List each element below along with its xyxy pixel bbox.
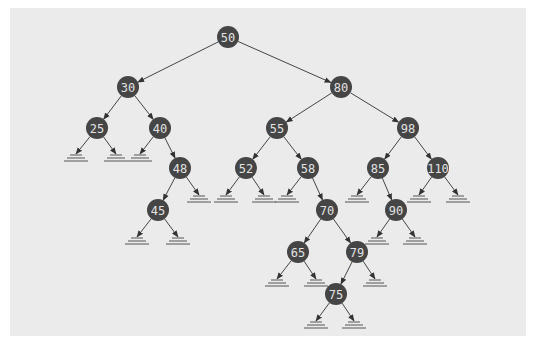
tree-edge (135, 96, 153, 120)
tree-edge (104, 96, 122, 119)
nil-leaf-icon (128, 155, 152, 161)
node-label: 110 (427, 162, 449, 176)
tree-node-85: 85 (367, 157, 389, 179)
nil-leaf-icon (265, 280, 289, 286)
tree-edge (287, 177, 301, 195)
tree-node-55: 55 (266, 117, 288, 139)
nodes-layer: 5030802540559848525885110457090657975 (86, 26, 449, 305)
node-label: 58 (301, 162, 315, 176)
tree-node-70: 70 (316, 199, 338, 221)
tree-edge (226, 177, 239, 195)
tree-edge (445, 177, 458, 195)
tree-edge (286, 93, 331, 122)
tree-node-75: 75 (325, 283, 347, 305)
tree-edge (304, 219, 320, 243)
tree-node-65: 65 (287, 241, 309, 263)
nil-leaf-icon (345, 196, 369, 202)
nil-leaves-layer (64, 137, 470, 328)
tree-edge (103, 137, 116, 154)
node-label: 52 (239, 162, 253, 176)
node-label: 45 (151, 204, 165, 218)
tree-edge (165, 219, 178, 237)
nil-leaf-icon (104, 155, 128, 161)
tree-node-50: 50 (217, 26, 239, 48)
tree-node-79: 79 (346, 241, 368, 263)
tree-node-52: 52 (235, 157, 257, 179)
node-label: 70 (320, 204, 334, 218)
tree-edge (385, 137, 402, 159)
tree-node-45: 45 (147, 199, 169, 221)
nil-leaf-icon (403, 238, 427, 244)
nil-leaf-icon (125, 238, 149, 244)
tree-edge (186, 177, 199, 195)
node-label: 98 (401, 122, 415, 136)
tree-edge (341, 262, 352, 284)
nil-leaf-icon (275, 196, 299, 202)
tree-edge (238, 41, 331, 82)
tree-edge (313, 178, 323, 200)
tree-node-48: 48 (169, 157, 191, 179)
tree-edge (140, 137, 153, 154)
tree-edge (163, 178, 175, 201)
nil-leaf-icon (252, 196, 276, 202)
nil-leaf-icon (446, 196, 470, 202)
tree-edge (253, 137, 271, 160)
node-label: 50 (221, 31, 235, 45)
tree-edge (277, 261, 291, 279)
tree-edge (382, 178, 391, 200)
tree-edge (137, 219, 151, 237)
tree-edge (304, 261, 316, 279)
node-label: 25 (90, 122, 104, 136)
node-label: 75 (329, 288, 343, 302)
tree-edge (316, 303, 329, 321)
node-label: 40 (153, 122, 167, 136)
tree-edge (415, 137, 432, 159)
tree-edge (76, 137, 90, 154)
nil-leaf-icon (365, 238, 389, 244)
tree-node-90: 90 (385, 199, 407, 221)
node-label: 55 (270, 122, 284, 136)
tree-edge (284, 137, 302, 160)
tree-node-58: 58 (297, 157, 319, 179)
tree-edge (402, 219, 415, 237)
nil-leaf-icon (166, 238, 190, 244)
node-label: 85 (371, 162, 385, 176)
node-label: 79 (350, 246, 364, 260)
node-label: 90 (389, 204, 403, 218)
tree-edge (350, 93, 398, 123)
tree-edge (342, 303, 354, 321)
nil-leaf-icon (304, 322, 328, 328)
tree-edge (377, 219, 390, 237)
tree-node-110: 110 (427, 157, 449, 179)
nil-leaf-icon (407, 196, 431, 202)
tree-edge (357, 177, 371, 195)
nil-leaf-icon (304, 280, 328, 286)
tree-edge (138, 42, 218, 82)
tree-edge (252, 177, 264, 195)
tree-node-40: 40 (149, 117, 171, 139)
tree-node-98: 98 (397, 117, 419, 139)
nil-leaf-icon (187, 196, 211, 202)
node-label: 80 (334, 81, 348, 95)
node-label: 48 (173, 162, 187, 176)
node-label: 30 (121, 81, 135, 95)
tree-edge (165, 138, 175, 158)
tree-node-25: 25 (86, 117, 108, 139)
nil-leaf-icon (363, 280, 387, 286)
tree-node-80: 80 (330, 76, 352, 98)
tree-node-30: 30 (117, 76, 139, 98)
tree-edge (333, 219, 350, 243)
tree-edge (363, 261, 375, 279)
tree-diagram: 5030802540559848525885110457090657975 (0, 0, 542, 361)
node-label: 65 (291, 246, 305, 260)
nil-leaf-icon (342, 322, 366, 328)
tree-edge (419, 177, 432, 195)
nil-leaf-icon (214, 196, 238, 202)
nil-leaf-icon (64, 155, 88, 161)
